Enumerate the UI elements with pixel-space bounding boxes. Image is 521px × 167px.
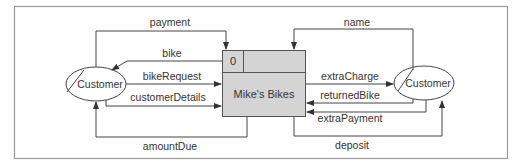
svg-text:customerDetails: customerDetails [130, 91, 205, 103]
svg-text:deposit: deposit [335, 139, 369, 151]
process-mikes-bikes[interactable]: 0 Mike's Bikes [223, 51, 306, 117]
entity-customer-left[interactable]: Customer [66, 67, 126, 101]
entity-customer-right[interactable]: Customer [394, 66, 454, 100]
svg-text:name: name [344, 16, 370, 28]
process-id: 0 [230, 55, 236, 67]
dfd-canvas: 0 Mike's Bikes Customer Customer payment… [0, 0, 521, 167]
svg-text:bike: bike [162, 47, 181, 59]
flow-payment: payment [96, 16, 226, 67]
svg-text:extraPayment: extraPayment [318, 112, 383, 124]
svg-text:bikeRequest: bikeRequest [143, 70, 201, 82]
svg-text:extraCharge: extraCharge [321, 70, 379, 82]
flow-customer-details: customerDetails [106, 91, 221, 106]
flow-deposit: deposit [294, 101, 442, 151]
entity-label-right: Customer [405, 77, 451, 89]
flow-extra-payment: extraPayment [307, 100, 426, 124]
entity-label-left: Customer [77, 78, 123, 90]
process-name: Mike's Bikes [234, 88, 295, 100]
flow-bike-request: bikeRequest [126, 70, 221, 84]
flow-name: name [294, 16, 413, 70]
flow-extra-charge: extraCharge [306, 70, 393, 84]
svg-text:amountDue: amountDue [143, 140, 197, 152]
svg-text:returnedBike: returnedBike [320, 89, 380, 101]
flow-bike: bike [112, 47, 222, 70]
svg-text:payment: payment [150, 16, 190, 28]
